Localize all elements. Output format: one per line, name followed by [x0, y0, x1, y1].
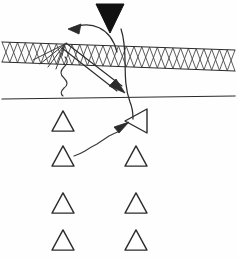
- diagram-svg: [0, 0, 237, 259]
- diagram-canvas: [0, 0, 237, 259]
